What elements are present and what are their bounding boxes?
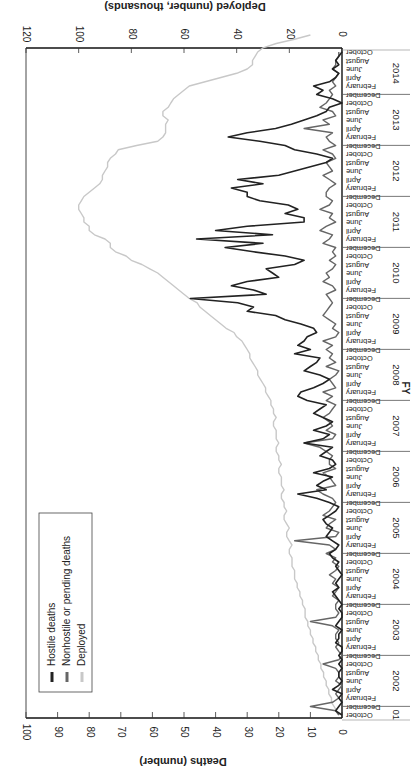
legend-label: Nonhostile or pending deaths <box>61 536 72 666</box>
deployed-tick-label: 100 <box>74 26 85 43</box>
deployed-axis-ticks: 020406080100120 <box>21 26 348 53</box>
deaths-deployed-chart: Deployed (number, thousands) Deaths (num… <box>0 0 416 776</box>
deaths-tick-label: 60 <box>148 726 159 738</box>
legend: Hostile deathsNonhostile or pending deat… <box>39 513 92 692</box>
deaths-tick-label: 40 <box>211 726 222 738</box>
fiscal-year-label: 2004 <box>391 568 402 589</box>
fiscal-year-label: 2005 <box>391 517 402 538</box>
deployed-tick-label: 40 <box>232 28 243 40</box>
top-axis-title: Deployed (number, thousands) <box>104 1 266 13</box>
deployed-tick-label: 0 <box>337 31 348 37</box>
hostile-deaths-line <box>190 52 342 715</box>
fiscal-year-label: 2011 <box>391 212 402 232</box>
deaths-tick-label: 90 <box>53 726 64 738</box>
deaths-tick-label: 20 <box>274 726 285 738</box>
fiscal-year-label: 2009 <box>391 313 402 334</box>
fiscal-year-label: 2002 <box>391 670 402 691</box>
month-labels: OctoberDecemberFebruaryAprilJuneAugustOc… <box>345 48 381 720</box>
fiscal-year-label: 2007 <box>391 415 402 436</box>
deaths-tick-label: 10 <box>306 726 317 738</box>
legend-label: Deployed <box>76 624 87 666</box>
deaths-tick-label: 80 <box>85 726 96 738</box>
deaths-axis-ticks: 0102030405060708090100 <box>21 712 348 741</box>
deaths-tick-label: 100 <box>21 724 32 741</box>
series-lines <box>79 35 342 715</box>
deaths-tick-label: 50 <box>179 726 190 738</box>
fiscal-year-label: 2006 <box>391 466 402 487</box>
fiscal-year-label: 2010 <box>391 262 402 283</box>
deployed-tick-label: 60 <box>179 28 190 40</box>
bottom-axis-title: Deaths (number) <box>139 756 227 768</box>
deaths-tick-label: 70 <box>116 726 127 738</box>
fiscal-year-label: 2003 <box>391 619 402 640</box>
fiscal-year-label: 01 <box>391 709 402 720</box>
month-label: October <box>346 48 373 57</box>
deaths-tick-label: 0 <box>337 729 348 735</box>
fiscal-year-label: 2008 <box>391 364 402 385</box>
fiscal-year-label: 2014 <box>391 63 402 84</box>
legend-label: Hostile deaths <box>46 603 57 666</box>
deaths-tick-label: 30 <box>243 726 254 738</box>
deployed-line <box>79 35 340 715</box>
deployed-tick-label: 20 <box>285 28 296 40</box>
deployed-tick-label: 120 <box>21 26 32 43</box>
fiscal-year-label: 2012 <box>391 160 402 181</box>
fiscal-year-label: 2013 <box>391 109 402 130</box>
deployed-tick-label: 80 <box>127 28 138 40</box>
